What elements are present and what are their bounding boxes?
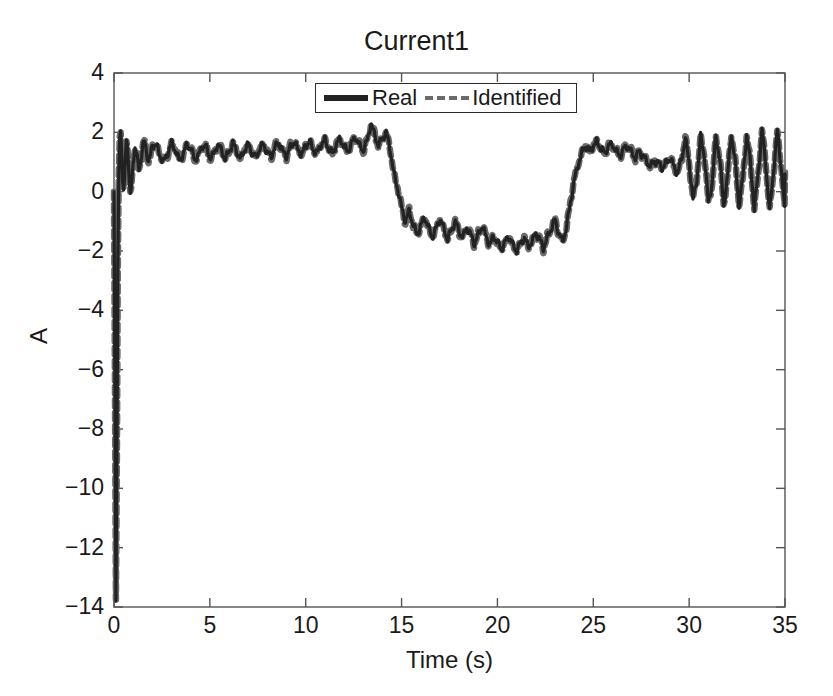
x-tick-label: 25	[553, 612, 633, 638]
y-tick-label: −8	[44, 417, 104, 440]
x-tick-label: 5	[170, 612, 250, 638]
y-tick-label: 0	[44, 180, 104, 203]
series-identified	[114, 125, 785, 599]
y-tick-label: −2	[44, 239, 104, 262]
x-tick-label: 20	[457, 612, 537, 638]
x-tick-label: 10	[266, 612, 346, 638]
y-tick-label: −4	[44, 298, 104, 321]
x-axis-label: Time (s)	[114, 646, 785, 674]
y-tick-label: −10	[44, 476, 104, 499]
y-tick-label: 4	[44, 61, 104, 84]
y-tick-label: 2	[44, 120, 104, 143]
legend-swatch-identified-icon	[425, 96, 469, 100]
legend-swatch-real-icon	[324, 95, 368, 101]
legend-row: Real Identified	[316, 84, 576, 112]
chart-title: Current1	[0, 26, 833, 57]
x-tick-label: 30	[649, 612, 729, 638]
y-tick-label: −6	[44, 358, 104, 381]
legend: Real Identified	[315, 83, 577, 113]
x-tick-label: 0	[74, 612, 154, 638]
legend-label-real: Real	[372, 85, 417, 111]
legend-label-identified: Identified	[472, 85, 561, 111]
y-tick-label: −12	[44, 536, 104, 559]
x-tick-label: 15	[362, 612, 442, 638]
series-real	[114, 124, 785, 601]
x-tick-label: 35	[745, 612, 825, 638]
figure-panel: Current1 A Time (s) 420−2−4−6−8−10−12−14…	[0, 0, 833, 696]
